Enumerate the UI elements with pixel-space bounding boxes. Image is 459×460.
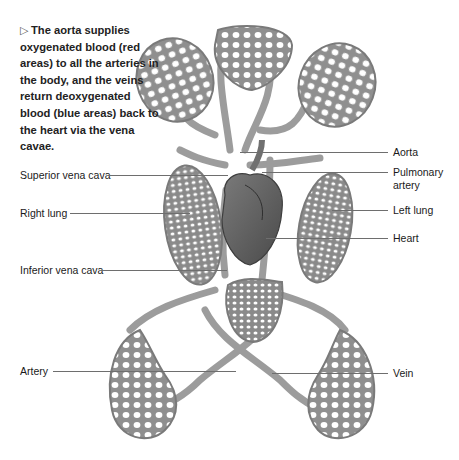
- heart-illustration: [222, 140, 282, 265]
- caption-text: ▷The aorta supplies oxygenated blood (re…: [20, 22, 160, 155]
- label-artery: Artery: [20, 365, 48, 378]
- leader-line-right-lung: [70, 213, 190, 214]
- label-heart: Heart: [393, 232, 419, 245]
- label-inferior-vena-cava: Inferior vena cava: [20, 264, 103, 277]
- leader-line-heart: [266, 238, 388, 239]
- leader-line-left-lung: [332, 210, 388, 211]
- caption-body: The aorta supplies oxygenated blood (red…: [20, 24, 159, 152]
- label-left-lung: Left lung: [393, 204, 433, 217]
- label-aorta: Aorta: [393, 146, 418, 159]
- label-pulmonary-artery-line1: Pulmonary: [393, 166, 443, 179]
- leader-line-inferior-vena-cava: [101, 270, 227, 271]
- leader-line-vein: [272, 373, 388, 374]
- triangle-marker-icon: ▷: [20, 24, 28, 36]
- label-right-lung: Right lung: [20, 207, 67, 220]
- label-pulmonary-artery-line2: artery: [393, 179, 420, 192]
- leader-line-superior-vena-cava: [108, 175, 228, 176]
- label-superior-vena-cava: Superior vena cava: [20, 169, 110, 182]
- label-vein: Vein: [393, 367, 413, 380]
- leader-line-aorta: [240, 152, 388, 153]
- leader-line-pulmonary-artery: [262, 172, 388, 173]
- leader-line-artery: [53, 371, 236, 372]
